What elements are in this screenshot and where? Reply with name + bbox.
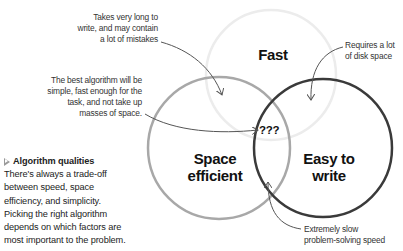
callout-line: of disk space <box>345 51 403 62</box>
callout-line: a lot of mistakes <box>40 34 158 45</box>
callout-line: Requires a lot <box>345 40 403 51</box>
caption-line: between speed, space <box>4 181 184 194</box>
caption-title: Algorithm qualities <box>4 155 184 168</box>
callout-line: The best algorithm will be <box>20 75 142 86</box>
center-question-text: ??? <box>259 124 279 136</box>
fast-label-text: Fast <box>258 46 288 63</box>
caption-line: most important to the problem. <box>4 234 184 247</box>
callout-line: Takes very long to <box>40 12 158 23</box>
easy-to-write-label-line1: Easy to <box>294 150 364 167</box>
caption-title-text: Algorithm qualities <box>13 155 94 168</box>
fast-label: Fast <box>248 46 298 63</box>
callout-line: write, and may contain <box>40 23 158 34</box>
callout-line: simple, fast enough for the <box>20 86 142 97</box>
easy-to-write-circle <box>254 79 392 217</box>
caption-line: depends on which factors are <box>4 221 184 234</box>
arrow-takes-long <box>161 42 222 95</box>
triangle-right-outline-icon <box>4 158 10 166</box>
arrow-disk-space <box>311 47 343 100</box>
callout-disk-space: Requires a lot of disk space <box>345 40 403 62</box>
callout-line: masses of space. <box>20 108 142 119</box>
caption-block: Algorithm qualities There's always a tra… <box>4 155 184 247</box>
space-efficient-label: Space efficient <box>175 150 255 184</box>
callout-takes-long: Takes very long to write, and may contai… <box>40 12 158 45</box>
easy-to-write-label: Easy to write <box>294 150 364 184</box>
callout-line: problem-solving speed <box>304 235 403 246</box>
callout-best-algorithm: The best algorithm will be simple, fast … <box>20 75 142 119</box>
caption-line: There's always a trade-off <box>4 168 184 181</box>
callout-slow-speed: Extremely slow problem-solving speed <box>304 224 403 246</box>
arrow-best-algorithm <box>145 114 258 132</box>
callout-line: task, and not take up <box>20 97 142 108</box>
space-efficient-label-line1: Space <box>175 150 255 167</box>
callout-line: Extremely slow <box>304 224 403 235</box>
easy-to-write-label-line2: write <box>294 167 364 184</box>
center-question-label: ??? <box>259 124 289 137</box>
caption-line: Picking the right algorithm <box>4 208 184 221</box>
fast-circle <box>206 10 336 140</box>
caption-line: efficiency, and simplicity. <box>4 195 184 208</box>
space-efficient-label-line2: efficient <box>175 167 255 184</box>
venn-diagram-figure: Fast Space efficient Easy to write ??? T… <box>0 0 403 251</box>
